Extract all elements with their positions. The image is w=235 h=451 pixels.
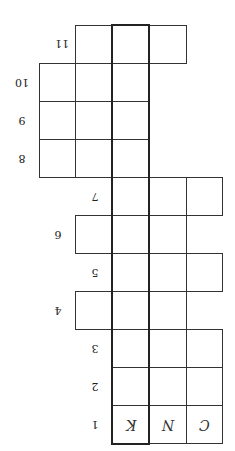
row-label-8: 8 [12,152,32,165]
crossword-grid: K N C 11 10 9 8 7 6 5 4 3 2 1 [0,0,235,451]
cell-r4-c2[interactable] [112,291,150,330]
cell-r7-c2[interactable] [112,177,150,216]
cell-r9-c0[interactable] [39,101,76,140]
cell-r1-c2[interactable]: K [112,405,150,444]
cell-r3-c2[interactable] [112,329,150,368]
cell-r11-c2[interactable] [112,25,150,64]
cell-r4-c1[interactable] [75,291,113,330]
cell-r5-c3[interactable] [149,253,187,292]
cell-letter: C [199,417,210,433]
cell-r11-c1[interactable] [75,25,113,64]
cell-r3-c4[interactable] [186,329,223,368]
cell-r10-c0[interactable] [39,63,76,102]
cell-r1-c3[interactable]: N [149,405,187,444]
row-label-6: 6 [48,228,68,241]
cell-letter: N [162,417,174,433]
row-label-11: 11 [52,37,72,50]
cell-r2-c4[interactable] [186,367,223,406]
cell-r5-c4[interactable] [186,253,223,292]
row-label-2: 2 [85,380,105,393]
cell-r6-c3[interactable] [149,215,187,254]
row-label-3: 3 [85,342,105,355]
cell-r10-c2[interactable] [112,63,150,102]
cell-r3-c3[interactable] [149,329,187,368]
cell-letter: K [126,417,136,433]
cell-r5-c2[interactable] [112,253,150,292]
row-label-5: 5 [85,266,105,279]
cell-r4-c3[interactable] [149,291,187,330]
row-label-1: 1 [85,418,105,431]
row-label-7: 7 [85,190,105,203]
cell-r6-c2[interactable] [112,215,150,254]
row-label-10: 10 [12,76,32,89]
cell-r8-c0[interactable] [39,139,76,178]
cell-r11-c3[interactable] [149,25,187,64]
cell-r7-c3[interactable] [149,177,187,216]
cell-r2-c3[interactable] [149,367,187,406]
cell-r2-c2[interactable] [112,367,150,406]
row-label-4: 4 [48,304,68,317]
cell-r6-c1[interactable] [75,215,113,254]
cell-r8-c2[interactable] [112,139,150,178]
cell-r9-c1[interactable] [75,101,113,140]
cell-r8-c1[interactable] [75,139,113,178]
row-label-9: 9 [12,114,32,127]
cell-r7-c4[interactable] [186,177,223,216]
cell-r1-c4[interactable]: C [186,405,223,444]
cell-r10-c1[interactable] [75,63,113,102]
cell-r9-c2[interactable] [112,101,150,140]
